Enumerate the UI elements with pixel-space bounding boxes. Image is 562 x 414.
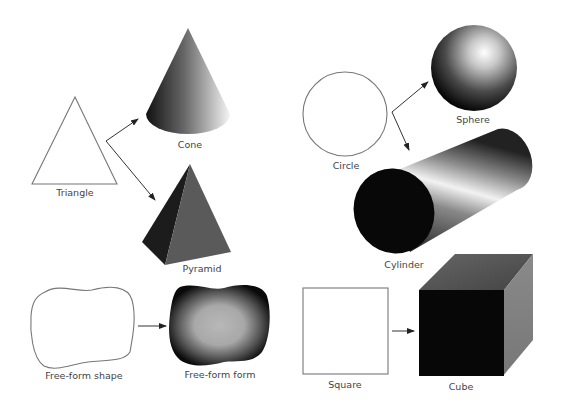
square-label: Square — [328, 379, 362, 390]
arrow-circle-to-cylinder — [392, 112, 409, 150]
freeform-shape — [31, 287, 134, 368]
freeform-form — [169, 285, 270, 366]
triangle-shape — [32, 97, 117, 184]
pyramid-label: Pyramid — [182, 263, 221, 274]
circle-shape — [303, 72, 387, 156]
cube-label: Cube — [449, 381, 474, 392]
shapes-to-forms-diagram: Triangle Cone Pyramid Circle Sphere Cyli… — [0, 0, 562, 414]
sphere-label: Sphere — [456, 114, 490, 125]
cone-form — [146, 28, 230, 134]
square-shape — [303, 288, 388, 374]
cylinder-form — [341, 129, 533, 266]
cylinder-label: Cylinder — [384, 259, 423, 270]
freeform-form-label: Free-form form — [185, 369, 256, 380]
sphere-form — [431, 25, 517, 111]
cone-label: Cone — [178, 139, 202, 150]
arrow-triangle-to-pyramid — [106, 141, 155, 200]
circle-label: Circle — [333, 160, 360, 171]
cube-form — [419, 254, 533, 376]
triangle-label: Triangle — [55, 187, 93, 198]
pyramid-form — [142, 164, 231, 265]
arrow-circle-to-sphere — [392, 82, 428, 112]
freeform-shape-label: Free-form shape — [45, 370, 123, 381]
arrow-triangle-to-cone — [106, 119, 138, 141]
